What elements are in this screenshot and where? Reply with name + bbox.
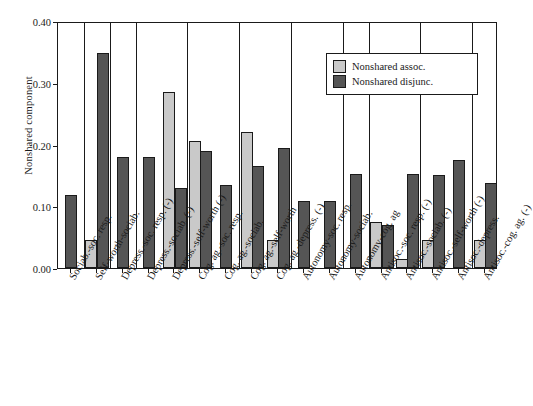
legend-swatch-disjunc-icon [333, 75, 346, 88]
legend-label-disjunc: Nonshared disjunc. [352, 76, 433, 87]
y-tick-label: 0.40 [17, 17, 51, 28]
legend-item-assoc: Nonshared assoc. [333, 59, 471, 74]
legend-label-assoc: Nonshared assoc. [352, 61, 425, 72]
group-separator [187, 23, 188, 268]
y-tick-mark [53, 269, 57, 270]
bar-nonshared-disjunc [65, 195, 77, 268]
y-axis-title: Nonshared component [23, 36, 34, 216]
y-tick-label: 0.30 [17, 78, 51, 89]
legend-swatch-assoc-icon [333, 60, 346, 73]
legend-item-disjunc: Nonshared disjunc. [333, 74, 471, 89]
group-separator [110, 23, 111, 268]
group-separator [84, 23, 85, 268]
group-separator [136, 23, 137, 268]
chart-legend: Nonshared assoc. Nonshared disjunc. [326, 53, 478, 95]
y-tick-label: 0.00 [17, 264, 51, 275]
y-tick-label: 0.10 [17, 202, 51, 213]
y-tick-label: 0.20 [17, 140, 51, 151]
group-separator [291, 23, 292, 268]
